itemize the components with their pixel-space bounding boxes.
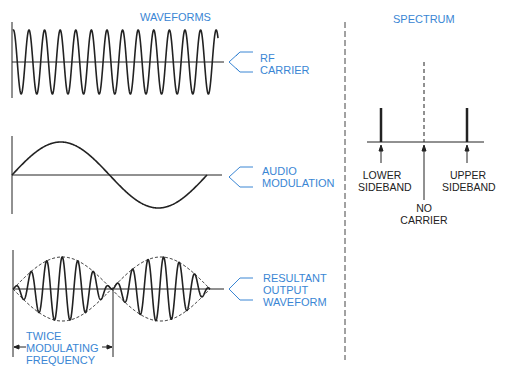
rf-carrier-waveform: [12, 22, 224, 98]
waveforms-heading: WAVEFORMS: [140, 11, 211, 23]
rf-carrier-label: RF CARRIER: [260, 52, 310, 76]
resultant-arrow-icon: [229, 278, 253, 300]
resultant-output-label: RESULTANT OUTPUT WAVEFORM: [263, 272, 327, 308]
upper-sideband-label: UPPER SIDEBAND: [442, 170, 494, 193]
diagram-canvas: [0, 0, 507, 374]
audio-modulation-label: AUDIO MODULATION: [262, 165, 335, 189]
pointer-arrows: [229, 52, 253, 300]
audio-arrow-icon: [229, 167, 253, 187]
spectrum-heading: SPECTRUM: [393, 13, 455, 25]
twice-modulating-label: TWICE MODULATING FREQUENCY: [26, 330, 99, 366]
rf-arrow-icon: [229, 52, 253, 72]
lower-sideband-label: LOWER SIDEBAND: [358, 170, 406, 193]
audio-modulation-waveform: [12, 136, 222, 214]
no-carrier-label: NO CARRIER: [398, 203, 450, 226]
